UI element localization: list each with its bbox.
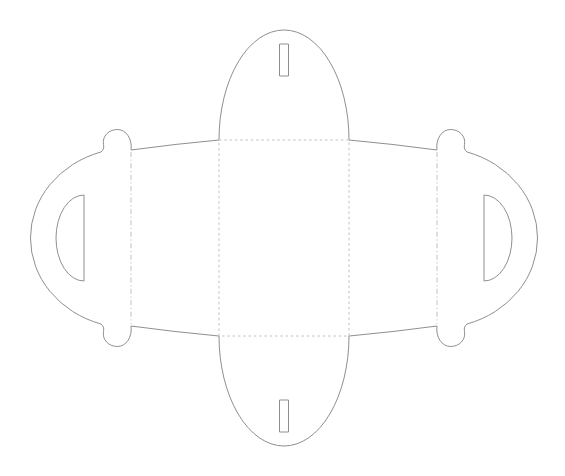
fold-line-base-rectangle xyxy=(219,140,349,336)
template-cut-outline xyxy=(30,30,537,446)
tab-slot-bottom xyxy=(280,400,289,432)
handle-cutout-right xyxy=(484,195,512,281)
tab-slot-top xyxy=(280,44,289,76)
basket-template-diagram xyxy=(0,0,565,476)
handle-cutout-left xyxy=(56,195,84,281)
template-page xyxy=(0,0,565,476)
